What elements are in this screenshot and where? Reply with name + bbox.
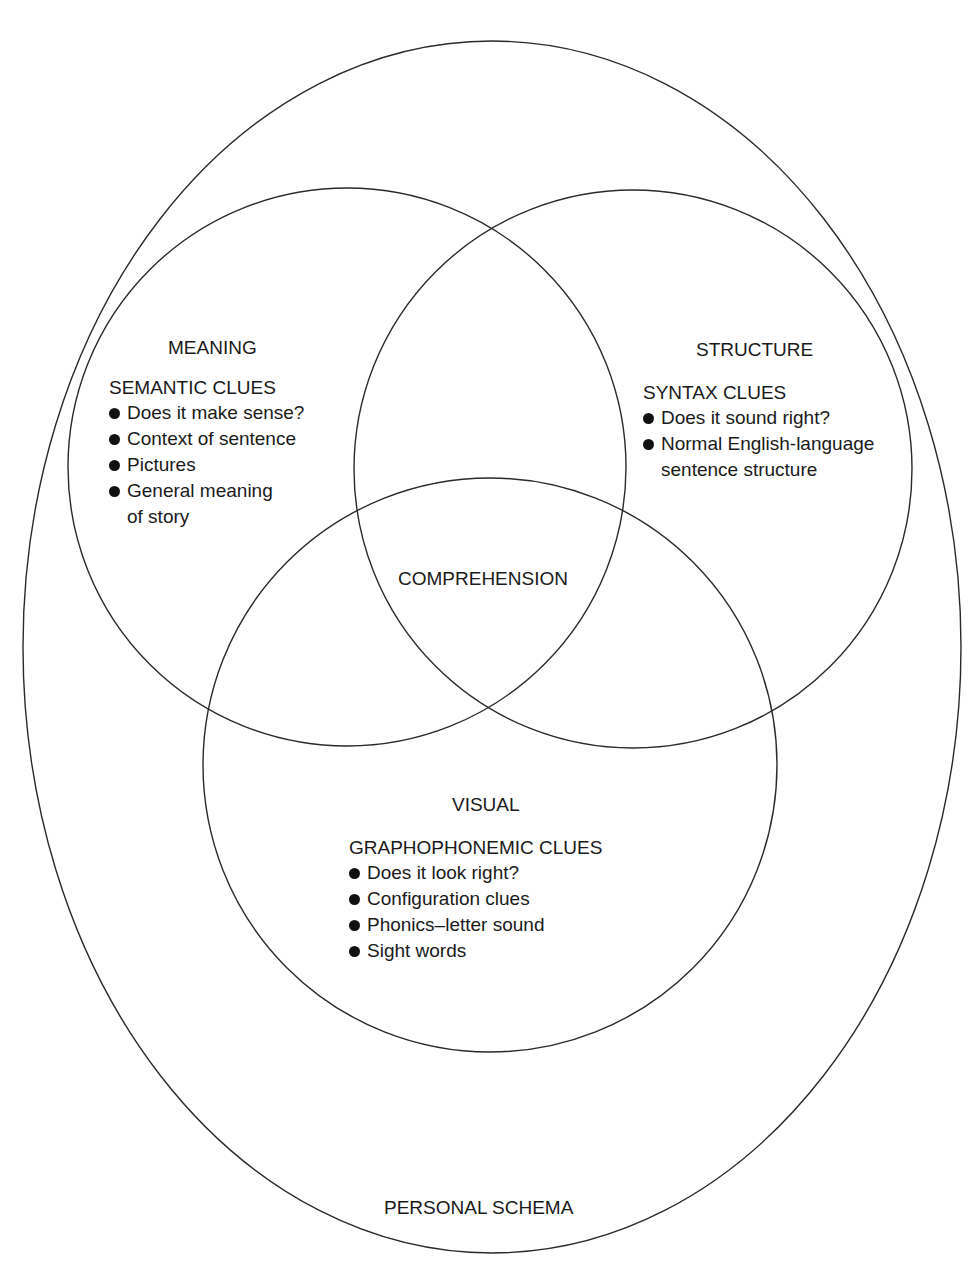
list-item: Does it sound right? [643,405,874,431]
bullet-icon [643,413,654,424]
bullet-icon [349,868,360,879]
list-item: Pictures [109,452,304,478]
list-item: Sight words [349,938,544,964]
graphophonemic-clues-heading: GRAPHOPHONEMIC CLUES [349,836,602,860]
bullet-icon [109,408,120,419]
visual-title: VISUAL [452,793,520,817]
syntax-clues-heading: SYNTAX CLUES [643,381,786,405]
personal-schema-label: PERSONAL SCHEMA [384,1195,573,1221]
list-item: Normal English-languagesentence structur… [643,431,874,483]
syntax-clues-list: Does it sound right? Normal English-lang… [643,405,874,483]
venn-diagram-shapes [0,0,972,1280]
visual-circle [203,478,777,1052]
personal-schema-ellipse [23,41,961,1253]
bullet-icon [349,946,360,957]
bullet-icon [643,439,654,450]
semantic-clues-list: Does it make sense? Context of sentence … [109,400,304,530]
comprehension-label: COMPREHENSION [398,566,568,592]
list-item: Configuration clues [349,886,544,912]
bullet-icon [349,920,360,931]
structure-title: STRUCTURE [696,338,813,362]
list-item: General meaningof story [109,478,304,530]
meaning-title: MEANING [168,336,257,360]
list-item: Does it make sense? [109,400,304,426]
list-item: Context of sentence [109,426,304,452]
bullet-icon [109,486,120,497]
bullet-icon [349,894,360,905]
bullet-icon [109,434,120,445]
graphophonemic-clues-list: Does it look right? Configuration clues … [349,860,544,964]
list-item: Phonics–letter sound [349,912,544,938]
semantic-clues-heading: SEMANTIC CLUES [109,376,276,400]
bullet-icon [109,460,120,471]
list-item: Does it look right? [349,860,544,886]
